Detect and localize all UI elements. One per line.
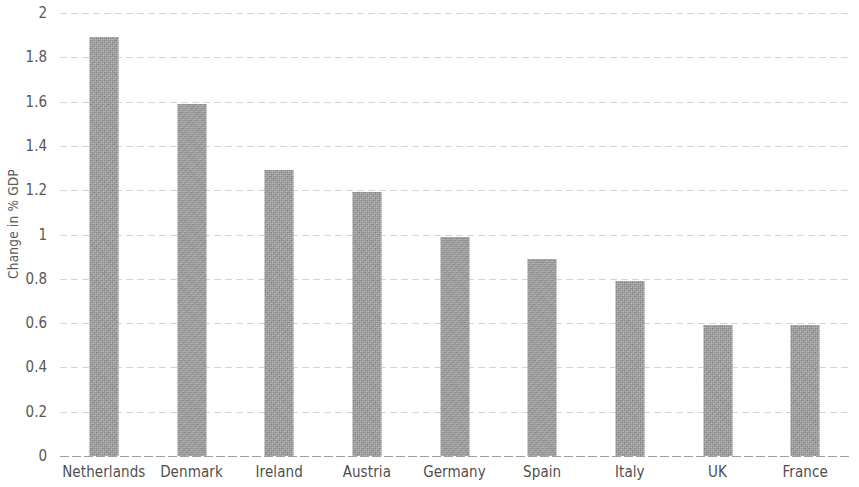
bar-group: [61, 13, 147, 456]
bar: [265, 170, 294, 456]
plot-area: [60, 13, 849, 456]
bar: [440, 237, 469, 456]
bar-group: [236, 13, 322, 456]
axis-baseline: [60, 456, 849, 457]
y-axis-tick-label: 2: [0, 4, 47, 22]
y-axis-tick-label: 0.4: [0, 358, 47, 376]
bar: [89, 37, 118, 456]
y-axis-tick-label: 1.8: [0, 48, 47, 66]
y-axis-tick-label: 1.6: [0, 93, 47, 111]
bar-group: [762, 13, 848, 456]
bar-group: [324, 13, 410, 456]
y-axis-tick-label: 0.6: [0, 314, 47, 332]
y-axis-tick-label: 1.2: [0, 181, 47, 199]
bar-group: [412, 13, 498, 456]
bar: [703, 325, 732, 456]
bar: [528, 259, 557, 456]
bar-group: [149, 13, 235, 456]
bar: [352, 192, 381, 456]
bar-group: [499, 13, 585, 456]
x-axis-tick-label: France: [740, 463, 859, 481]
bar: [615, 281, 644, 456]
y-axis-tick-label: 0.8: [0, 270, 47, 288]
y-axis-tick-label: 1.4: [0, 137, 47, 155]
y-axis-tick-label: 0.2: [0, 403, 47, 421]
y-axis-tick-label: 1: [0, 226, 47, 244]
bar-chart-figure: Change in % GDP 00.20.40.60.811.21.41.61…: [0, 0, 859, 487]
bar: [791, 325, 820, 456]
bar-group: [675, 13, 761, 456]
bar: [177, 104, 206, 456]
bar-group: [587, 13, 673, 456]
